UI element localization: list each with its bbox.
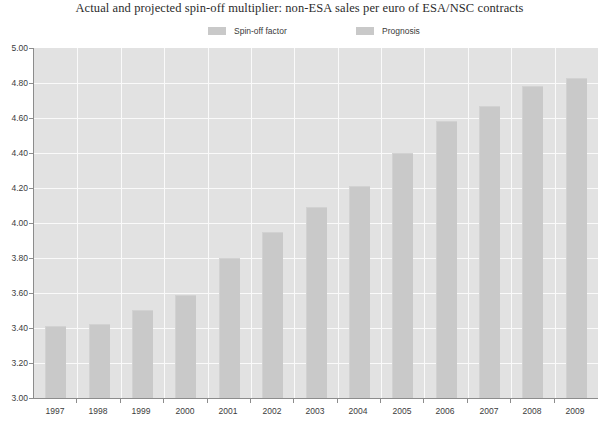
x-axis-tick-mark [554,399,555,403]
bar-2007[interactable] [479,106,500,398]
chart-legend: Spin-off factor Prognosis [0,24,599,38]
legend-entry-prognosis: Prognosis [356,24,420,38]
gridline-vertical [555,48,556,398]
bar-2002[interactable] [262,232,283,398]
chart-figure: Actual and projected spin-off multiplier… [0,0,599,423]
y-axis-tick-mark [29,153,33,154]
x-axis: 1997199819992000200120022003200420052006… [33,406,597,418]
bar-1999[interactable] [132,310,153,398]
x-axis-tick-label: 2002 [252,406,292,416]
bar-2009[interactable] [566,78,587,398]
y-axis-tick-mark [29,223,33,224]
bar-2004[interactable] [349,186,370,398]
y-axis-tick-label: 4.60 [0,114,28,123]
gridline-vertical [511,48,512,398]
bar-2005[interactable] [392,153,413,398]
x-axis-tick-label: 2009 [555,406,595,416]
x-axis-tick-mark [76,399,77,403]
x-axis-tick-mark [163,399,164,403]
plot-area [33,48,598,399]
legend-label-prognosis: Prognosis [382,26,420,36]
x-axis-tick-mark [250,399,251,403]
y-axis-tick-mark [29,48,33,49]
y-axis-tick-mark [29,188,33,189]
x-axis-tick-mark [337,399,338,403]
y-axis-tick-mark [29,363,33,364]
y-axis-tick-label: 3.60 [0,289,28,298]
x-axis-tick-mark [293,399,294,403]
y-axis-tick-mark [29,118,33,119]
x-axis-tick-label: 1998 [78,406,118,416]
x-axis-tick-label: 2004 [338,406,378,416]
y-axis-tick-label: 4.40 [0,149,28,158]
x-axis-tick-label: 2006 [425,406,465,416]
x-axis-tick-mark [467,399,468,403]
gridline-horizontal [34,188,598,189]
x-axis-tick-mark [423,399,424,403]
chart-title: Actual and projected spin-off multiplier… [0,1,599,16]
x-axis-tick-label: 1997 [35,406,75,416]
x-axis-tick-label: 2003 [295,406,335,416]
x-axis-tick-label: 2000 [165,406,205,416]
bar-2003[interactable] [306,207,327,398]
gridline-vertical [468,48,469,398]
gridline-vertical [164,48,165,398]
y-axis-tick-mark [29,328,33,329]
y-axis-tick-label: 3.00 [0,394,28,403]
y-axis-tick-label: 3.20 [0,359,28,368]
x-axis-tick-label: 1999 [121,406,161,416]
gridline-horizontal [34,118,598,119]
x-axis-tick-label: 2001 [208,406,248,416]
y-axis-tick-mark [29,293,33,294]
y-axis-tick-mark [29,398,33,399]
gridline-vertical [338,48,339,398]
plot-inner [34,48,598,398]
x-axis-tick-label: 2007 [469,406,509,416]
bar-2001[interactable] [219,258,240,398]
x-axis-tick-mark [207,399,208,403]
y-axis-tick-mark [29,83,33,84]
y-axis-tick-label: 4.20 [0,184,28,193]
gridline-vertical [381,48,382,398]
gridline-horizontal [34,83,598,84]
bar-1997[interactable] [45,326,66,398]
legend-swatch-prognosis [356,27,374,35]
x-axis-tick-mark [120,399,121,403]
gridline-vertical [251,48,252,398]
gridline-vertical [294,48,295,398]
y-axis-tick-label: 4.80 [0,79,28,88]
gridline-vertical [121,48,122,398]
y-axis: 5.004.804.604.404.204.003.803.603.403.20… [0,48,28,398]
bar-2008[interactable] [522,86,543,398]
legend-entry-spin-off-factor: Spin-off factor [208,24,287,38]
y-axis-tick-label: 4.00 [0,219,28,228]
bar-2006[interactable] [436,121,457,398]
x-axis-tick-mark [510,399,511,403]
y-axis-tick-mark [29,258,33,259]
legend-swatch-spin-off-factor [208,27,226,35]
gridline-vertical [424,48,425,398]
gridline-vertical [77,48,78,398]
y-axis-tick-label: 3.80 [0,254,28,263]
gridline-horizontal [34,153,598,154]
legend-label-spin-off-factor: Spin-off factor [234,26,287,36]
bar-1998[interactable] [89,324,110,398]
y-axis-tick-label: 5.00 [0,44,28,53]
gridline-vertical [208,48,209,398]
x-axis-tick-label: 2005 [382,406,422,416]
y-axis-tick-label: 3.40 [0,324,28,333]
x-axis-tick-label: 2008 [512,406,552,416]
bar-2000[interactable] [175,295,196,398]
x-axis-tick-mark [380,399,381,403]
